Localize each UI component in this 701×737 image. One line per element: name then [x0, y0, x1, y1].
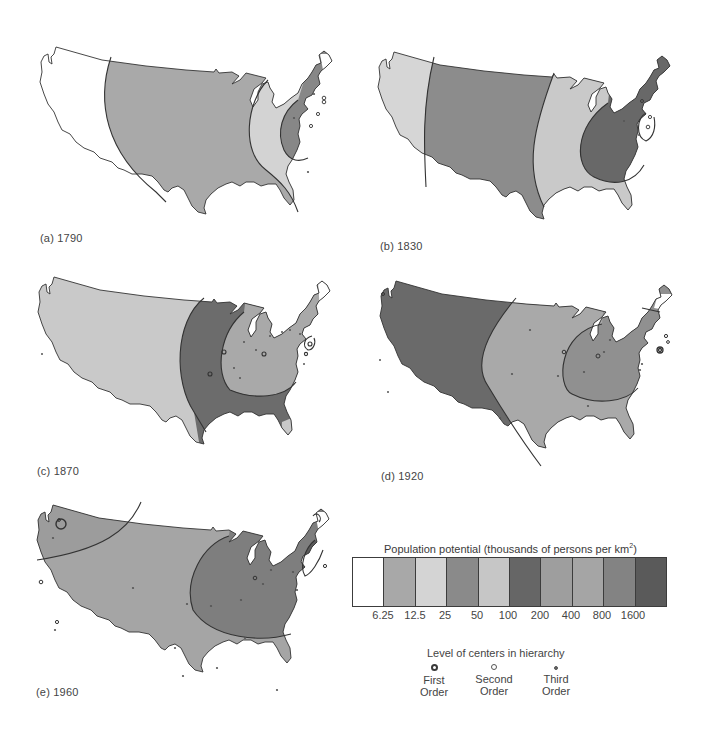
first-order-center-legend: First Order — [404, 664, 464, 698]
map-panel-1920: (d) 1920 — [376, 276, 676, 476]
first-order-circle-icon — [431, 664, 438, 671]
legend-swatch — [384, 558, 415, 606]
legend-swatch — [479, 558, 510, 606]
legend-tick: 1600 — [621, 609, 645, 621]
legend-title: Population potential (thousands of perso… — [384, 542, 637, 555]
us-map-1960 — [33, 500, 333, 700]
legend-swatch — [510, 558, 541, 606]
third-order-dot-icon — [554, 666, 558, 670]
legend-tick: 800 — [593, 609, 611, 621]
map-panel-1870: (c) 1870 — [34, 272, 334, 472]
legend-swatch — [416, 558, 447, 606]
map-panel-1830: (b) 1830 — [374, 47, 674, 247]
legend-swatch — [353, 558, 384, 606]
legend-swatch — [447, 558, 478, 606]
panel-label: (e) 1960 — [36, 686, 79, 698]
panel-label: (b) 1830 — [380, 240, 423, 252]
legend-tick: 100 — [499, 609, 517, 621]
population-potential-legend: Population potential (thousands of perso… — [350, 539, 700, 737]
legend-swatch — [636, 558, 666, 606]
us-map-1870 — [34, 272, 334, 472]
hierarchy-legend-title: Level of centers in hierarchy — [427, 647, 565, 659]
legend-tick: 25 — [439, 609, 451, 621]
us-map-1830 — [374, 47, 674, 247]
legend-swatch — [604, 558, 635, 606]
legend-swatch — [573, 558, 604, 606]
legend-tick-labels: 6.25 12.5 25 50 100 200 400 800 1600 — [350, 609, 680, 625]
legend-tick: 400 — [562, 609, 580, 621]
legend-swatch — [541, 558, 572, 606]
panel-label: (d) 1920 — [381, 470, 424, 482]
legend-tick: 6.25 — [372, 609, 393, 621]
map-panel-1960: (e) 1960 — [33, 500, 333, 700]
us-map-1920 — [376, 276, 676, 476]
second-order-center-legend: Second Order — [464, 664, 524, 697]
panel-label: (c) 1870 — [37, 465, 79, 477]
panel-label: (a) 1790 — [40, 232, 83, 244]
third-order-center-legend: Third Order — [526, 664, 586, 697]
legend-tick: 12.5 — [404, 609, 425, 621]
legend-tick: 200 — [531, 609, 549, 621]
legend-color-scale — [352, 557, 667, 607]
legend-tick: 50 — [471, 609, 483, 621]
us-map-1790 — [36, 42, 336, 242]
second-order-circle-icon — [491, 664, 497, 670]
map-panel-1790: (a) 1790 — [36, 42, 336, 242]
